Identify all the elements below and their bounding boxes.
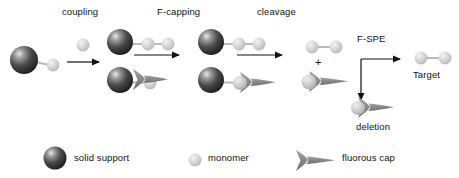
deletion-product-glyph [348,95,402,123]
arrow-coupling [66,56,106,68]
dark-sphere-icon [42,145,68,171]
species-cleaved-capped-monomer [298,69,354,99]
species-free-monomer [74,36,92,54]
legend-label-monomer: monomer [208,152,249,163]
species-capped-resin [196,66,280,100]
cleaved-dimer-glyph [303,37,347,57]
light-sphere-icon [187,152,203,168]
monomer-sphere [351,101,365,115]
step-label-f-spe: F-SPE [357,33,385,44]
monomer-sphere [77,39,90,52]
species-start-resin [8,44,68,78]
step-label-f-capping: F-capping [157,6,200,17]
arrow-right-icon [66,56,106,68]
monomer-sphere [415,52,428,65]
capped-resin-glyph [196,66,280,100]
arrow-right-icon [236,49,290,61]
monomer-sphere [47,59,60,72]
fork-shape-icon [292,146,340,174]
start-resin-glyph [8,44,68,78]
reaction-scheme: coupling F-capping cleavage F-SPE Target… [0,0,459,178]
monomer-sphere [330,41,343,54]
arrow-right-icon [133,49,187,61]
step-label-cleavage: cleavage [257,6,296,17]
arrow-f-capping [133,49,187,61]
species-free-cap [130,66,172,94]
monomer-sphere [439,52,452,65]
solid-support-sphere [198,67,224,93]
species-cleaved-dimer [303,37,347,57]
monomer-sphere [233,76,247,90]
product-label-target: Target [413,69,440,80]
solid-support-sphere [10,46,38,74]
arrow-cleavage [236,49,290,61]
target-dimer-glyph [412,48,456,68]
cleaved-capped-monomer-glyph [298,69,354,99]
solid-support-sphere [198,29,224,55]
plus-sign: + [315,57,322,68]
solid-support-sphere [107,29,133,55]
species-deletion-product [348,95,402,123]
species-target-dimer [412,48,456,68]
monomer-sphere [306,41,319,54]
legend-label-fluorous-cap: fluorous cap [342,152,395,163]
monomer-sphere [302,75,317,90]
step-label-coupling: coupling [62,6,98,17]
legend-item-fluorous-cap [292,146,340,174]
fluorous-cap-glyph [130,66,172,94]
legend-item-solid-support [42,145,68,171]
legend-item-monomer [187,152,203,168]
legend-label-solid-support: solid support [74,152,129,163]
free-monomer-glyph [74,36,92,54]
